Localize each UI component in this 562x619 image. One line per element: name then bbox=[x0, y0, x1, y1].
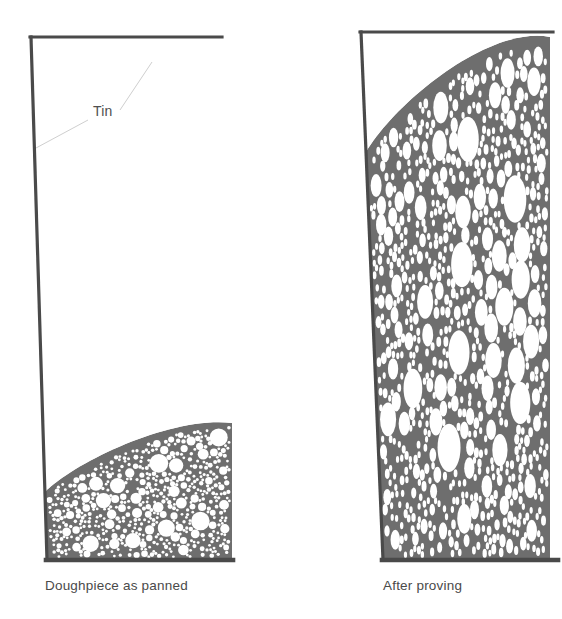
dough-proving-diagram: Tin Doughpiece as panned After proving bbox=[0, 0, 562, 619]
figure-root: Tin Doughpiece as panned After proving bbox=[0, 0, 562, 619]
tin-label: Tin bbox=[93, 103, 113, 119]
caption-after-proving: After proving bbox=[383, 578, 462, 593]
caption-doughpiece-as-panned: Doughpiece as panned bbox=[45, 578, 188, 593]
